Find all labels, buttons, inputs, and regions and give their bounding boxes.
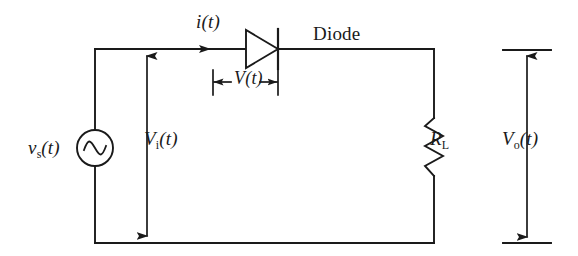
source-voltage-label: vs(t) (28, 138, 60, 160)
diode-label: Diode (313, 24, 360, 43)
output-voltage-label: Vo(t) (502, 129, 538, 151)
diode-voltage-label: V(t) (234, 69, 263, 87)
ac-source-sine-icon (84, 141, 106, 154)
circuit-schematic-canvas (0, 0, 578, 256)
current-label: i(t) (196, 12, 220, 31)
input-voltage-label: Vi(t) (144, 129, 178, 151)
diode-triangle-icon (246, 30, 278, 68)
load-resistor-label: RL (430, 129, 449, 151)
circuit-diagram-figure: vs(t) Vi(t) i(t) V(t) Diode RL Vo(t) (0, 0, 578, 256)
